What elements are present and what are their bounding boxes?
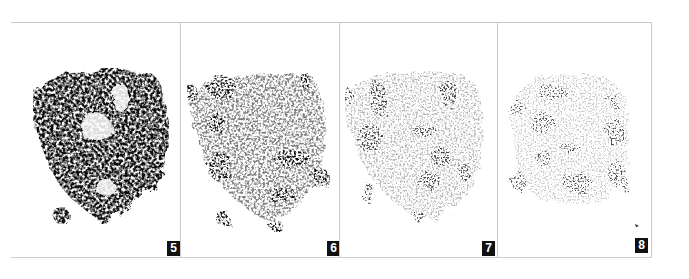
figure-bottom-border bbox=[11, 257, 652, 258]
specimen-image bbox=[498, 23, 651, 257]
specimen-image bbox=[11, 23, 180, 257]
panel-label-5: 5 bbox=[167, 241, 180, 256]
panel-label-6: 6 bbox=[327, 241, 339, 256]
specimen-image bbox=[181, 23, 339, 257]
figure-right-border bbox=[651, 22, 652, 258]
specimen-panel-7: 7 bbox=[340, 23, 497, 257]
specimen-figure: 5 bbox=[11, 22, 652, 258]
specimen-panel-5: 5 bbox=[11, 23, 180, 257]
specimen-panel-8: 8 bbox=[498, 23, 651, 257]
specimen-panel-6: 6 bbox=[181, 23, 339, 257]
specimen-image bbox=[340, 23, 497, 257]
panel-label-7: 7 bbox=[482, 241, 495, 256]
specimen-mark bbox=[635, 224, 639, 227]
panel-label-8: 8 bbox=[635, 238, 648, 253]
